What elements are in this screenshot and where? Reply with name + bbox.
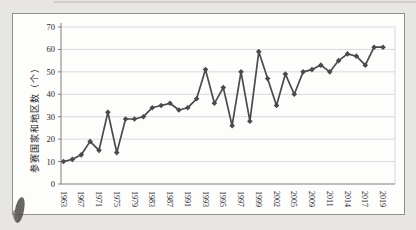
x-tick-label-1983: 1983 [147, 191, 156, 207]
x-tick-label-1979: 1979 [130, 191, 139, 207]
x-tick-label-1963: 1963 [59, 191, 68, 207]
x-tick-label-1991: 1991 [183, 191, 192, 207]
x-tick-label-1993: 1993 [201, 191, 210, 207]
y-tick-label-0: 0 [51, 179, 55, 189]
x-tick-label-1971: 1971 [94, 191, 103, 207]
data-point-marker [291, 91, 297, 97]
x-tick-label-2014: 2014 [343, 191, 352, 207]
line-chart-plot: 0102030405060701963196719711975197919831… [13, 14, 406, 216]
data-point-marker [238, 69, 244, 75]
y-tick-label-10: 10 [47, 157, 56, 167]
y-tick-label-40: 40 [47, 89, 56, 99]
data-line [64, 47, 384, 161]
x-tick-label-2011: 2011 [325, 191, 334, 207]
chart-figure: 0102030405060701963196719711975197919831… [12, 13, 405, 215]
x-tick-label-2005: 2005 [289, 191, 298, 207]
x-tick-label-2002: 2002 [272, 191, 281, 207]
data-point-marker [300, 69, 306, 75]
x-tick-label-1995: 1995 [218, 191, 227, 207]
x-tick-label-2017: 2017 [360, 191, 369, 207]
page-background: 0102030405060701963196719711975197919831… [0, 0, 416, 230]
data-point-marker [265, 76, 271, 82]
x-tick-label-1997: 1997 [236, 191, 245, 207]
page-top-rule [54, 1, 416, 3]
data-point-marker [274, 103, 280, 109]
y-tick-label-30: 30 [47, 112, 56, 122]
y-axis-title: 参赛国家和地区数（个） [27, 39, 43, 197]
y-tick-label-50: 50 [47, 67, 56, 77]
x-tick-label-1999: 1999 [254, 191, 263, 207]
x-tick-label-1975: 1975 [112, 191, 121, 207]
x-tick-label-2019: 2019 [378, 191, 387, 207]
data-point-marker [158, 103, 164, 109]
data-point-marker [229, 123, 235, 129]
y-tick-label-20: 20 [47, 134, 56, 144]
x-tick-label-2009: 2009 [307, 191, 316, 207]
x-tick-label-1987: 1987 [165, 191, 174, 207]
x-tick-label-1967: 1967 [76, 191, 85, 207]
data-point-marker [247, 118, 253, 124]
data-point-marker [105, 109, 111, 115]
y-tick-label-70: 70 [47, 22, 56, 32]
data-point-marker [114, 150, 120, 156]
y-tick-label-60: 60 [47, 44, 56, 54]
data-point-marker [61, 159, 67, 165]
